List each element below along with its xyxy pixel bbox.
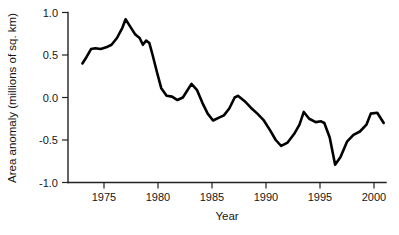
y-axis-title: Area anomaly (millions of sq. km) — [6, 13, 18, 183]
x-tick-label-1985: 1985 — [200, 191, 224, 203]
y-tick-label-0.5: 0.5 — [43, 49, 58, 61]
x-axis-title: Year — [215, 210, 238, 222]
x-tick-label-1980: 1980 — [146, 191, 170, 203]
x-tick-label-1975: 1975 — [92, 191, 116, 203]
area-anomaly-line-chart: 1.0 0.5 0.0 -0.5 -1.0 1975 1980 1985 199… — [0, 0, 399, 235]
x-tick-label-2000: 2000 — [362, 191, 386, 203]
x-tick-label-1990: 1990 — [254, 191, 278, 203]
y-tick-label--1.0: -1.0 — [39, 177, 58, 189]
data-series-area-anomaly — [82, 19, 383, 164]
y-tick-label-1.0: 1.0 — [43, 7, 58, 19]
x-tick-label-1995: 1995 — [308, 191, 332, 203]
y-tick-label-0.0: 0.0 — [43, 92, 58, 104]
y-tick-label--0.5: -0.5 — [39, 134, 58, 146]
chart-plot-area: 1.0 0.5 0.0 -0.5 -1.0 1975 1980 1985 199… — [0, 0, 399, 235]
